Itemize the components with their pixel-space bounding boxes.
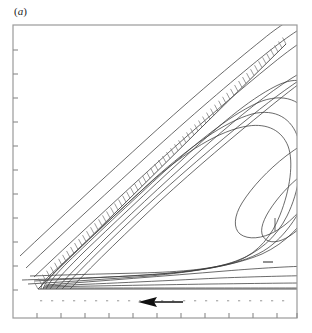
dot-marker	[216, 300, 218, 301]
dot-marker	[260, 300, 262, 301]
dot-marker	[84, 300, 86, 301]
dot-marker	[249, 300, 251, 301]
dot-marker	[139, 300, 141, 301]
dot-marker	[117, 300, 119, 301]
dot-marker	[282, 300, 284, 301]
dot-marker	[128, 300, 130, 301]
dot-marker	[227, 300, 229, 301]
dot-marker	[51, 300, 53, 301]
dot-marker	[183, 300, 185, 301]
dot-marker	[172, 300, 174, 301]
dot-marker	[62, 300, 64, 301]
dot-marker	[238, 300, 240, 301]
dot-marker	[194, 300, 196, 301]
dot-marker	[161, 300, 163, 301]
dot-marker	[73, 300, 75, 301]
figure-panel: (a)	[0, 0, 312, 333]
dot-marker	[95, 300, 97, 301]
dot-marker	[40, 300, 42, 301]
streamline-plot	[0, 0, 312, 333]
dot-marker	[271, 300, 273, 301]
dot-marker	[106, 300, 108, 301]
dot-marker	[205, 300, 207, 301]
